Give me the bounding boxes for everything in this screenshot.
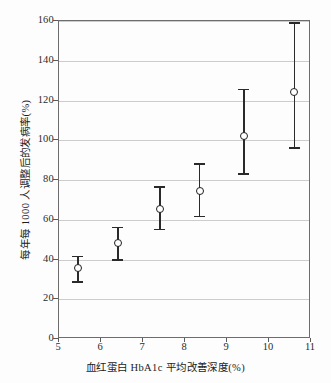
y-tick-label: 60 — [8, 214, 54, 225]
data-marker — [74, 264, 82, 272]
gridline — [59, 220, 309, 221]
errorbar-cap-upper — [112, 227, 123, 229]
errorbar-cap-upper — [72, 256, 83, 258]
x-tick-mark — [58, 338, 59, 342]
data-marker — [196, 187, 204, 195]
y-tick-label: 160 — [8, 15, 54, 26]
y-tick-label: 140 — [8, 55, 54, 66]
errorbar-line — [243, 89, 244, 173]
y-tick-label: 40 — [8, 254, 54, 265]
y-tick-label: 80 — [8, 174, 54, 185]
x-tick-label: 7 — [127, 342, 157, 353]
x-tick-label: 5 — [43, 342, 73, 353]
errorbar-cap-lower — [289, 147, 300, 149]
x-tick-mark — [100, 338, 101, 342]
gridline — [59, 260, 309, 261]
plot-area — [58, 20, 310, 338]
data-marker — [114, 239, 122, 247]
x-tick-label: 10 — [253, 342, 283, 353]
data-point-errorbar — [68, 254, 88, 284]
errorbar-cap-lower — [154, 229, 165, 231]
x-tick-mark — [310, 338, 311, 342]
data-point-errorbar — [234, 87, 254, 175]
x-tick-mark — [226, 338, 227, 342]
x-tick-label: 6 — [85, 342, 115, 353]
data-marker — [156, 205, 164, 213]
data-marker — [290, 88, 298, 96]
x-tick-mark — [184, 338, 185, 342]
data-point-errorbar — [150, 184, 170, 231]
gridline — [59, 180, 309, 181]
x-tick-mark — [142, 338, 143, 342]
gridline — [59, 140, 309, 141]
errorbar-cap-upper — [194, 163, 205, 165]
chart-figure: 每年每 1000 人调整后的发病率(%) 0204060801001201401… — [0, 0, 331, 383]
data-point-errorbar — [284, 20, 304, 149]
x-tick-label: 8 — [169, 342, 199, 353]
errorbar-cap-lower — [72, 281, 83, 283]
errorbar-cap-upper — [154, 186, 165, 188]
gridline — [59, 61, 309, 62]
errorbar-cap-upper — [289, 22, 300, 24]
gridline — [59, 21, 309, 22]
x-tick-label: 9 — [211, 342, 241, 353]
x-tick-mark — [268, 338, 269, 342]
gridline — [59, 299, 309, 300]
errorbar-cap-lower — [238, 173, 249, 175]
x-axis-title: 血红蛋白 HbA1c 平均改善深度(%) — [0, 359, 331, 374]
y-tick-label: 100 — [8, 134, 54, 145]
errorbar-cap-lower — [112, 259, 123, 261]
errorbar-line — [294, 22, 295, 147]
gridline — [59, 101, 309, 102]
data-point-errorbar — [108, 225, 128, 262]
y-tick-label: 20 — [8, 293, 54, 304]
errorbar-cap-lower — [194, 216, 205, 218]
data-marker — [240, 132, 248, 140]
x-tick-label: 11 — [295, 342, 325, 353]
data-point-errorbar — [190, 161, 210, 218]
y-tick-label: 120 — [8, 95, 54, 106]
errorbar-cap-upper — [238, 89, 249, 91]
